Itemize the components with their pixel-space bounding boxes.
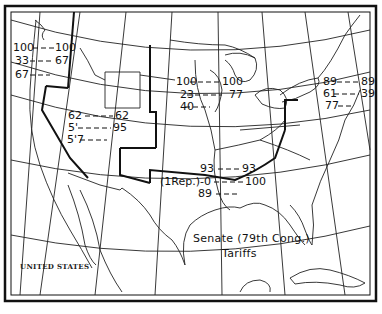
country-label: UNITED STATES (20, 262, 89, 271)
nw-left-1: 100 (13, 42, 34, 54)
s-right-1: 93 (242, 163, 256, 175)
mt-right-2: 95 (113, 122, 127, 134)
nw-right-2: 67 (55, 55, 69, 67)
map-title-line2: Tariffs (222, 247, 257, 260)
mt-left-3: 5'7 (67, 134, 84, 146)
map-title-line1: Senate (79th Cong.) (193, 232, 310, 245)
mw-right-2: 77 (229, 89, 243, 101)
mw-left-1: 100 (176, 76, 197, 88)
mw-left-3: 40 (180, 101, 194, 113)
s-right-2: 100 (245, 176, 266, 188)
nw-left-2: 33 (15, 55, 29, 67)
ne-right-2: 39 (361, 88, 375, 100)
nw-right-1: 100 (55, 42, 76, 54)
s-left-1: 93 (200, 163, 214, 175)
nw-left-3: 67 (15, 69, 29, 81)
mw-right-1: 100 (222, 76, 243, 88)
coastlines-and-borders (30, 15, 365, 292)
ne-left-3: 77 (325, 100, 339, 112)
s-left-3: 89 (198, 188, 212, 200)
